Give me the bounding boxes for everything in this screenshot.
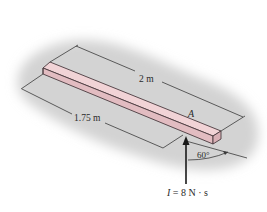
label-distance-to-A: 1.75 m	[74, 113, 101, 123]
label-bar-length: 2 m	[139, 74, 154, 84]
label-angle: 60°	[197, 150, 210, 160]
label-point-A: A	[187, 108, 195, 119]
label-impulse: I = 8 N · s	[166, 187, 208, 198]
impulse-value: = 8 N · s	[170, 187, 208, 198]
bar-impulse-diagram: 2 m 1.75 m A 60° I = 8 N · s	[0, 0, 267, 212]
